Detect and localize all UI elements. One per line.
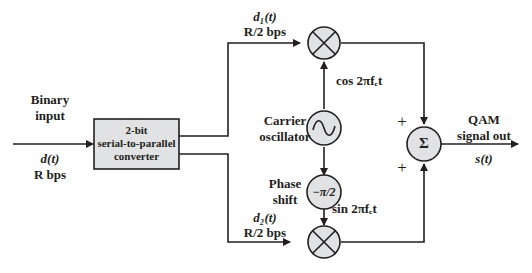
output-signal: s(t)	[446, 151, 522, 166]
phase-line2: shift	[262, 192, 308, 207]
qam-diagram: Binary input d(t) R bps 2-bit serial-to-…	[0, 0, 532, 273]
plus-top: +	[395, 114, 409, 129]
output-line2: signal out	[446, 128, 522, 143]
input-signal: d(t)	[20, 151, 80, 166]
input-label-line1: Binary	[20, 92, 80, 107]
output-line1: QAM	[446, 112, 522, 127]
oscillator-line1: Carrier	[252, 113, 318, 128]
lower-rate: R/2 bps	[230, 225, 300, 240]
input-label-line2: input	[20, 108, 80, 123]
converter-line2: serial-to-parallel	[94, 137, 179, 150]
phase-line1: Phase	[262, 176, 308, 191]
upper-mixer	[308, 27, 340, 59]
oscillator-line2: oscillator	[252, 129, 318, 144]
lower-mixer	[308, 226, 340, 258]
cos-carrier-label: cos 2πfₑt	[336, 73, 382, 88]
sin-carrier-label: sin 2πfₑt	[332, 201, 377, 216]
sigma-symbol: Σ	[412, 136, 436, 151]
plus-bottom: +	[395, 160, 409, 175]
lower-signal: d₂(t)	[230, 210, 300, 225]
upper-rate: R/2 bps	[230, 24, 300, 39]
upper-signal: d₁(t)	[230, 9, 300, 24]
phase-value: −π/2	[307, 185, 341, 200]
converter-line3: converter	[94, 150, 179, 163]
input-rate: R bps	[20, 167, 80, 182]
converter-line1: 2-bit	[94, 124, 179, 137]
